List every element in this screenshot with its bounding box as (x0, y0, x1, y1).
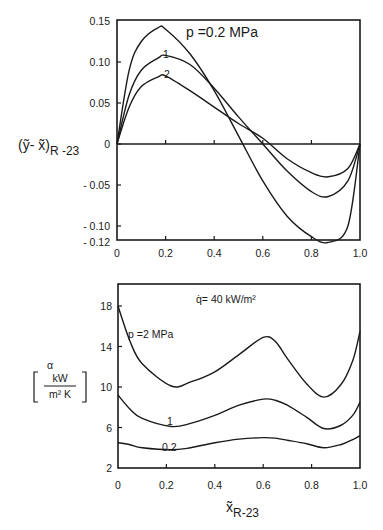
top-x-tick-label: 0 (114, 247, 120, 259)
top-y-tick-label: 0.15 (90, 15, 111, 27)
top-y-ticks: 0.150.100.050- 0.05- 0.10- 0.12 (83, 15, 121, 248)
bottom-y-axis-left-bracket (34, 372, 38, 402)
bottom-curve-0 (118, 306, 360, 397)
bottom-x-tick-label: 0.4 (207, 479, 222, 491)
top-x-tick-label: 0.2 (158, 247, 173, 259)
top-curves (117, 26, 360, 243)
bottom-y-axis-right-bracket (82, 372, 86, 402)
bottom-curve-2 (118, 436, 360, 450)
top-x-tick-label: 0.4 (207, 247, 222, 259)
bottom-annotation-heat-flux: q̇= 40 kW/m² (196, 293, 256, 305)
bottom-y-tick-label: 18 (100, 300, 112, 312)
bottom-x-axis-label: x̃R-23 (226, 499, 259, 520)
top-curve-1 (117, 55, 360, 197)
top-y-tick-label: - 0.05 (83, 179, 110, 191)
bottom-y-tick-label: 2 (106, 462, 112, 474)
bottom-curve-1 (118, 395, 360, 429)
top-curve-0 (117, 26, 360, 243)
top-curve-label-2: 2 (164, 68, 170, 80)
top-annotation-pressure: p =0.2 MPa (186, 24, 258, 40)
top-x-tick-label: 1.0 (353, 247, 368, 259)
bottom-x-tick-label: 0 (115, 479, 121, 491)
bottom-y-tick-label: 10 (100, 381, 112, 393)
bottom-x-tick-label: 0.2 (159, 479, 174, 491)
top-y-tick-label: 0.05 (90, 97, 111, 109)
top-y-axis-label: (ỹ- x̃)R -23 (18, 137, 80, 158)
bottom-y-axis-unit-denominator: m² K (49, 388, 71, 400)
top-x-ticks: 00.20.40.60.81.0 (114, 140, 367, 259)
bottom-x-tick-label: 1.0 (353, 479, 368, 491)
figure: 00.20.40.60.81.0 0.150.100.050- 0.05- 0.… (0, 0, 383, 530)
bottom-y-axis-symbol: α (47, 359, 53, 371)
top-y-tick-label: 0.10 (90, 56, 111, 68)
bottom-curve-label-0-2: 0.2 (162, 441, 177, 453)
top-chart: 00.20.40.60.81.0 0.150.100.050- 0.05- 0.… (18, 15, 367, 259)
top-y-tick-label: - 0.12 (83, 236, 110, 248)
top-y-tick-label: - 0.10 (83, 220, 110, 232)
top-x-tick-label: 0.6 (255, 247, 270, 259)
bottom-y-axis-unit-numerator: kW (52, 372, 67, 384)
bottom-curve-label-1: 1 (167, 415, 173, 427)
top-x-tick-label: 0.8 (304, 247, 319, 259)
bottom-plot-frame (118, 284, 360, 468)
bottom-x-tick-label: 0.6 (256, 479, 271, 491)
top-curve-2 (117, 75, 360, 177)
top-plot-frame (117, 20, 360, 240)
bottom-x-tick-label: 0.8 (304, 479, 319, 491)
bottom-annotation-pressure: p =2 MPa (128, 328, 173, 340)
bottom-chart: 00.20.40.60.81.0 18141062 q̇= 40 kW/m² p… (34, 284, 367, 520)
top-y-tick-label: 0 (104, 138, 110, 150)
bottom-y-tick-label: 14 (100, 341, 112, 353)
top-curve-label-1: 1 (163, 48, 169, 60)
bottom-y-tick-label: 6 (106, 422, 112, 434)
